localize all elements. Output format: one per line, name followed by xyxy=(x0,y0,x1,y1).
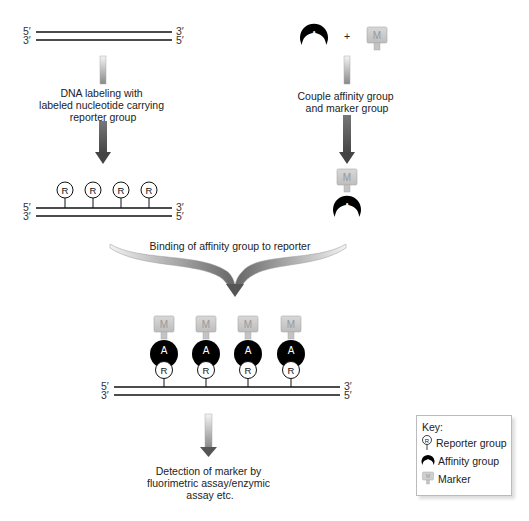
reporter-icon: R xyxy=(421,435,433,451)
reporter-group: R xyxy=(85,182,101,208)
reporter-group: R xyxy=(141,182,157,208)
svg-text:M: M xyxy=(202,319,210,330)
step-label-couple: Couple affinity group and marker group xyxy=(297,90,396,114)
reporter-group: R xyxy=(57,182,73,208)
marker-affinity-conjugate: M A xyxy=(333,169,361,217)
svg-text:A: A xyxy=(344,202,351,213)
legend-item-marker: M Marker xyxy=(421,471,471,486)
legend-item-affinity: A Affinity group xyxy=(421,454,499,468)
svg-text:M: M xyxy=(287,319,295,330)
bound-complex: M A R xyxy=(192,316,220,387)
svg-text:3′: 3′ xyxy=(23,210,31,222)
marker-icon: M xyxy=(421,471,435,486)
step-label-dna-labeling: DNA labeling with labeled nucleotide car… xyxy=(39,87,167,123)
svg-text:R: R xyxy=(161,365,168,376)
legend-title: Key: xyxy=(422,421,443,433)
dna-duplex-top: 5′ 3′ 3′ 5′ xyxy=(23,25,184,46)
svg-text:R: R xyxy=(146,185,153,196)
svg-text:R: R xyxy=(90,185,97,196)
svg-text:5′: 5′ xyxy=(344,389,352,401)
svg-text:M: M xyxy=(426,473,430,479)
dna-duplex-detected: 5′ 3′ 3′ 5′ M A R M A R M A R xyxy=(101,316,352,401)
bound-complex: M A R xyxy=(277,316,305,387)
dna-duplex-labeled: 5′ 3′ 3′ 5′ R R R R xyxy=(23,182,184,222)
svg-text:M: M xyxy=(160,319,168,330)
svg-text:3′: 3′ xyxy=(101,389,109,401)
affinity-group-icon: A xyxy=(300,24,328,45)
marker-icon: M xyxy=(367,27,387,50)
legend-item-reporter: R Reporter group xyxy=(421,435,507,451)
step-label-binding: Binding of affinity group to reporter xyxy=(150,240,311,252)
affinity-icon: A xyxy=(421,454,435,468)
svg-text:R: R xyxy=(245,365,252,376)
svg-text:A: A xyxy=(245,345,252,356)
svg-text:R: R xyxy=(203,365,210,376)
legend-key: Key: R Reporter group A Affinity group M… xyxy=(416,415,512,496)
strand-end-label: 5′ xyxy=(176,34,184,46)
svg-text:R: R xyxy=(425,438,430,444)
strand-end-label: 3′ xyxy=(23,34,31,46)
svg-text:R: R xyxy=(118,185,125,196)
svg-text:A: A xyxy=(311,30,318,41)
plus-sign: + xyxy=(344,30,350,42)
bound-complex: M A R xyxy=(234,316,262,387)
step-label-detection: Detection of marker by fluorimetric assa… xyxy=(147,465,273,501)
svg-text:R: R xyxy=(62,185,69,196)
svg-text:A: A xyxy=(161,345,168,356)
svg-text:R: R xyxy=(288,365,295,376)
svg-text:A: A xyxy=(426,458,430,464)
arrow-detection xyxy=(200,414,217,457)
svg-text:A: A xyxy=(288,345,295,356)
svg-text:M: M xyxy=(343,172,351,183)
bound-complex: M A R xyxy=(150,316,178,387)
svg-text:A: A xyxy=(203,345,210,356)
svg-text:M: M xyxy=(373,30,381,41)
reporter-group: R xyxy=(113,182,129,208)
svg-text:5′: 5′ xyxy=(176,210,184,222)
svg-text:M: M xyxy=(244,319,252,330)
